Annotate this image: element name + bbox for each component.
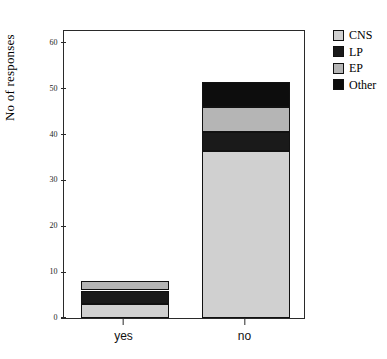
y-axis-title-text: No of responses: [2, 0, 18, 121]
x-axis-tick-mark: [123, 319, 124, 325]
y-axis-tick-label: 30: [50, 176, 61, 184]
bar-yes: [81, 29, 169, 318]
y-axis-tick-mark: [61, 88, 66, 89]
y-axis-tick-mark: [61, 134, 66, 135]
legend-item-label: CNS: [349, 29, 372, 41]
x-axis-tick-yes: yes: [114, 319, 133, 343]
legend: CNSLPEPOther: [333, 29, 376, 91]
y-axis-tick-label: 10: [50, 268, 61, 276]
y-axis-tick-mark: [61, 180, 66, 181]
legend-item-label: EP: [349, 62, 363, 74]
y-axis-tick-mark: [61, 226, 66, 227]
legend-swatch-icon: [333, 79, 344, 90]
plot-area: 0102030405060: [63, 30, 305, 319]
stacked-bar-chart: No of responses 0102030405060 yesno CNSL…: [0, 0, 387, 359]
y-axis-tick-label: 40: [50, 131, 61, 139]
bar-segment-no-lp: [202, 132, 290, 150]
legend-swatch-icon: [333, 46, 344, 57]
legend-swatch-icon: [333, 63, 344, 74]
bar-segment-yes-lp: [81, 291, 169, 305]
x-axis-tick-no: no: [238, 319, 251, 343]
y-axis-tick-label: 60: [50, 39, 61, 47]
legend-item-other[interactable]: Other: [333, 79, 376, 91]
bar-segment-no-cns: [202, 151, 290, 318]
legend-item-label: Other: [349, 79, 376, 91]
legend-item-cns[interactable]: CNS: [333, 29, 376, 41]
x-axis-tick-label: yes: [114, 329, 133, 343]
legend-item-lp[interactable]: LP: [333, 46, 376, 58]
y-axis-tick-label: 0: [54, 314, 61, 322]
x-axis-tick-label: no: [238, 329, 251, 343]
bar-segment-no-ep: [202, 107, 290, 132]
legend-item-label: LP: [349, 46, 363, 58]
legend-swatch-icon: [333, 30, 344, 41]
y-axis-tick-label: 50: [50, 85, 61, 93]
legend-item-ep[interactable]: EP: [333, 62, 376, 74]
y-axis-tick-mark: [61, 272, 66, 273]
bar-segment-no-other: [202, 82, 290, 107]
x-axis-tick-mark: [244, 319, 245, 325]
y-axis-title: No of responses: [2, 0, 18, 115]
bar-segment-yes-cns: [81, 304, 169, 318]
bar-segment-yes-ep: [81, 281, 169, 290]
y-axis-tick-mark: [61, 317, 66, 318]
y-axis-tick-mark: [61, 42, 66, 43]
bar-no: [202, 29, 290, 318]
y-axis-tick-label: 20: [50, 222, 61, 230]
